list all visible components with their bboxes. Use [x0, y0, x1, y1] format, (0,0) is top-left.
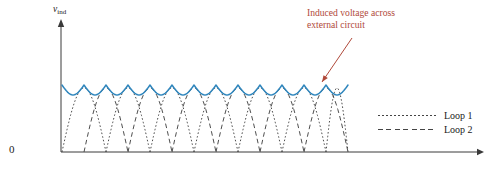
annotation-line-2: external circuit: [307, 19, 365, 30]
chart-canvas: [0, 0, 498, 169]
origin-label: 0: [9, 143, 15, 156]
annotation-leader-line: [322, 38, 352, 82]
loop-2-arch: [128, 88, 172, 152]
legend-swatch-loop-1: [378, 115, 436, 116]
loop-2-arch: [260, 88, 304, 152]
legend-item-loop-2: Loop 2: [378, 122, 473, 136]
annotation-line-1: Induced voltage across: [307, 7, 395, 18]
induced-voltage-chart: vind 0 Induced voltage acrossexternal ci…: [0, 0, 498, 169]
legend: Loop 1 Loop 2: [378, 108, 496, 140]
y-axis-label: vind: [53, 4, 66, 16]
y-axis-label-subscript: ind: [57, 8, 66, 16]
y-axis-arrowhead: [58, 19, 64, 27]
loop-1-arch: [326, 88, 348, 152]
loop-1-arch: [106, 88, 150, 152]
loop-2-arch: [84, 88, 128, 152]
loop-1-arch: [194, 88, 238, 152]
legend-item-loop-1: Loop 1: [378, 108, 473, 122]
legend-label-loop-1: Loop 1: [444, 110, 473, 121]
annotation-text: Induced voltage acrossexternal circuit: [307, 7, 395, 30]
legend-swatch-loop-2: [378, 129, 436, 130]
induced-voltage-envelope: [62, 85, 348, 95]
loop-2-arch: [216, 88, 260, 152]
annotation-arrowhead: [322, 75, 328, 82]
loop-1-arch: [238, 88, 282, 152]
loop-1-arch: [62, 88, 106, 152]
legend-label-loop-2: Loop 2: [444, 124, 473, 135]
loop-2-arch: [172, 88, 216, 152]
loop-1-arch: [150, 88, 194, 152]
loop-1-arch: [282, 88, 326, 152]
x-axis-arrowhead: [477, 149, 484, 155]
loop-2-arch: [304, 88, 348, 152]
